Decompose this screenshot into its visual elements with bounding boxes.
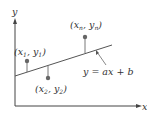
point-1-label: (x1, y1) (14, 46, 46, 58)
y-axis-label: y (11, 6, 18, 17)
data-point-1 (25, 59, 29, 63)
equation-leader (97, 52, 106, 65)
point-n-label: (xn, yn) (70, 19, 102, 31)
data-point-n (83, 35, 87, 39)
x-axis-label: x (142, 101, 147, 112)
data-point-2 (46, 76, 50, 80)
regression-diagram: y x (x1, y1) (x2, y2) (xn, yn) y = ax + … (0, 0, 147, 120)
point-2-label: (x2, y2) (35, 83, 67, 95)
y-axis-arrow-icon (13, 18, 17, 24)
line-equation: y = ax + b (82, 66, 133, 77)
